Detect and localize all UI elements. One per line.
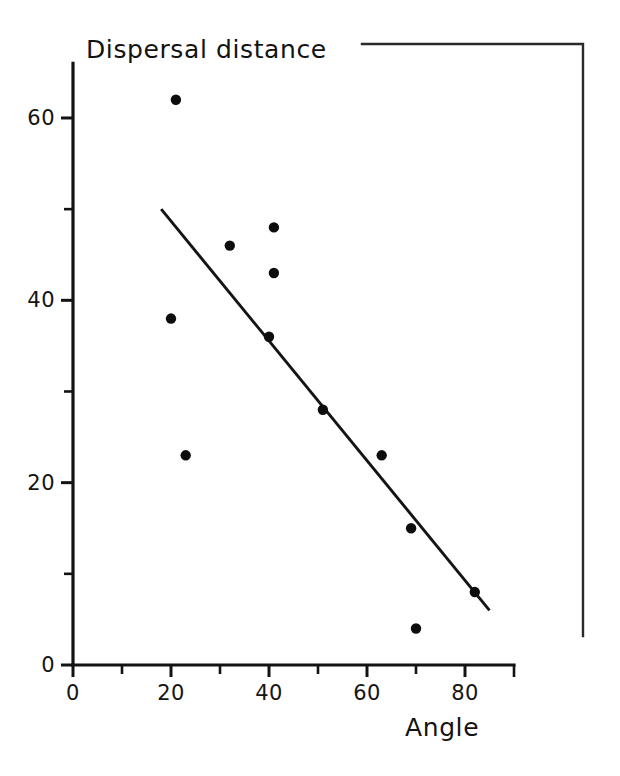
data-point xyxy=(269,222,279,232)
data-point xyxy=(470,587,480,597)
x-tick-label: 60 xyxy=(353,681,381,705)
data-point xyxy=(171,95,181,105)
data-point xyxy=(377,450,387,460)
data-point xyxy=(411,623,421,633)
x-tick-label: 0 xyxy=(66,681,80,705)
x-tick-label: 80 xyxy=(451,681,479,705)
data-point xyxy=(181,450,191,460)
data-point xyxy=(264,332,274,342)
y-tick-label: 0 xyxy=(41,653,55,677)
chart-figure: Dispersal distance Angle 020406002040608… xyxy=(0,0,620,776)
plot-canvas xyxy=(0,0,620,776)
frame-border xyxy=(362,44,583,636)
data-point xyxy=(166,313,176,323)
x-tick-label: 40 xyxy=(255,681,283,705)
y-tick-label: 40 xyxy=(27,288,55,312)
y-tick-label: 60 xyxy=(27,106,55,130)
data-points xyxy=(166,95,480,634)
data-point xyxy=(225,240,235,250)
axis-ticks xyxy=(61,118,514,677)
plot-frame xyxy=(362,44,583,636)
y-tick-label: 20 xyxy=(27,471,55,495)
data-point xyxy=(318,405,328,415)
data-point xyxy=(269,268,279,278)
plot-axes xyxy=(73,63,514,665)
data-point xyxy=(406,523,416,533)
x-tick-label: 20 xyxy=(157,681,185,705)
